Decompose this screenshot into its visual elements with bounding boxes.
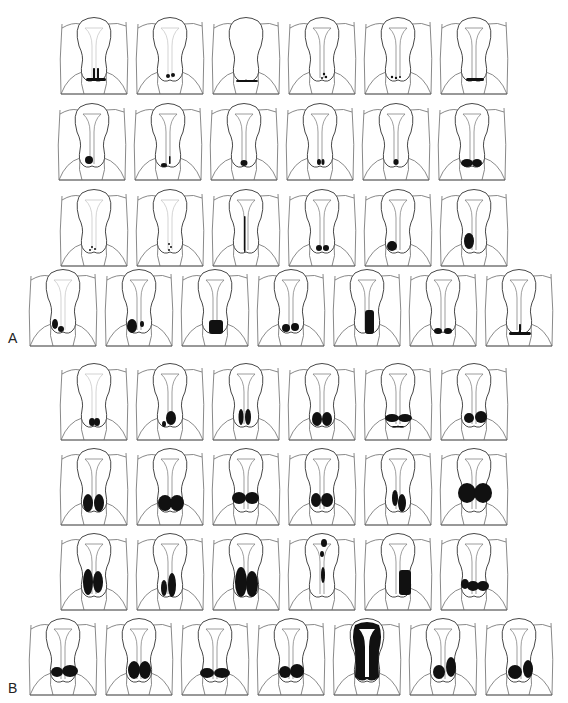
lesion-mark [244, 216, 246, 252]
schematic-b-r4-c1 [27, 615, 99, 697]
schematic-b-r2-c5 [362, 445, 434, 527]
lesion-mark [93, 571, 103, 593]
schematic-b-r4-c2 [103, 615, 175, 697]
lesion-mark [279, 666, 291, 678]
schematic-a-r2-c2 [132, 100, 204, 182]
lesion-mark [245, 492, 259, 504]
lesion-mark [209, 320, 223, 334]
lesion-mark [140, 321, 144, 327]
lesion-mark [200, 668, 214, 678]
lesion-mark [282, 324, 290, 332]
lesion-mark [394, 159, 399, 165]
uterus-outline [305, 190, 339, 254]
schematic-b-r1-c6 [438, 360, 510, 442]
uterus-outline [457, 18, 491, 82]
lesion-mark [158, 495, 172, 511]
lesion-mark [474, 483, 492, 503]
schematic-a-r3-c6 [438, 186, 510, 268]
panel-label-b: B [8, 680, 17, 696]
lesion-mark [398, 494, 406, 512]
schematic-b-r1-c1 [58, 360, 130, 442]
lesion-mark [323, 73, 325, 75]
schematic-a-r4-c7 [483, 266, 555, 348]
lesion-mark [236, 80, 258, 82]
schematic-a-r1-c3 [210, 14, 282, 96]
uterus-outline [455, 104, 489, 168]
lesion-mark [235, 567, 247, 597]
uterus-outline [381, 18, 415, 82]
schematic-a-r3-c1 [58, 186, 130, 268]
uterus-outline [305, 364, 339, 428]
lesion-mark [519, 324, 521, 333]
uterus-outline [457, 449, 491, 513]
uterus-outline [229, 18, 263, 82]
schematic-a-r4-c5 [331, 266, 403, 348]
lesion-mark [395, 77, 397, 79]
lesion-mark [89, 249, 91, 251]
lesion-mark [322, 159, 325, 165]
uterus-outline [381, 449, 415, 513]
schematic-b-r4-c3 [179, 615, 251, 697]
lesion-mark [321, 567, 325, 583]
schematic-a-r1-c6 [438, 14, 510, 96]
lesion-mark [168, 573, 176, 597]
schematic-b-r3-c4 [286, 530, 358, 612]
uterus-outline [426, 270, 460, 334]
lesion-mark [161, 163, 167, 167]
schematic-b-r3-c2 [134, 530, 206, 612]
schematic-b-r3-c3 [210, 530, 282, 612]
lesion-mark [385, 414, 399, 422]
lesion-mark [399, 570, 411, 595]
lesion-mark [94, 248, 96, 250]
lesion-mark [508, 665, 522, 679]
lesion-mark [433, 665, 445, 679]
lesion-mark [392, 426, 404, 428]
lesion-mark [246, 571, 258, 597]
uterus-outline [153, 190, 187, 254]
lesion-mark [83, 494, 93, 512]
uterus-outline [77, 449, 111, 513]
panel-label-a: A [8, 330, 17, 346]
lesion-mark [161, 580, 167, 596]
schematic-a-r2-c1 [56, 100, 128, 182]
uterus-outline [303, 104, 337, 168]
lesion-mark [311, 493, 321, 507]
schematic-b-r4-c7 [483, 615, 555, 697]
lesion-mark [241, 160, 248, 166]
schematic-b-r4-c5 [331, 615, 403, 697]
schematic-a-r4-c4 [255, 266, 327, 348]
schematic-b-r2-c1 [58, 445, 130, 527]
lesion-mark [245, 409, 251, 425]
schematic-a-r3-c5 [362, 186, 434, 268]
lesion-mark [464, 233, 474, 249]
lesion-mark [444, 328, 452, 334]
schematic-b-r2-c4 [286, 445, 358, 527]
lesion-mark [169, 156, 171, 164]
schematic-a-r3-c4 [286, 186, 358, 268]
uterus-outline [274, 270, 308, 334]
schematic-b-r3-c6 [438, 530, 510, 612]
schematic-b-r1-c4 [286, 360, 358, 442]
lesion-mark [162, 421, 166, 427]
uterus-outline [502, 270, 536, 334]
lesion-mark [171, 73, 175, 77]
lesion-mark [58, 326, 64, 332]
uterus-outline [151, 104, 185, 168]
schematic-a-r1-c4 [286, 14, 358, 96]
lesion-mark [477, 581, 489, 591]
lesion-mark [398, 414, 412, 422]
lesion-mark [168, 243, 170, 245]
lesion-mark [317, 159, 321, 165]
lesion-mark [392, 490, 398, 506]
schematic-b-r4-c6 [407, 615, 479, 697]
schematic-b-r2-c2 [134, 445, 206, 527]
lesion-mark [62, 665, 78, 677]
schematic-b-r2-c3 [210, 445, 282, 527]
schematic-a-r4-c2 [103, 266, 175, 348]
lesion-mark [232, 492, 246, 504]
lesion-mark [434, 328, 442, 334]
uterus-outline [457, 190, 491, 254]
lesion-mark [214, 668, 230, 678]
schematic-a-r4-c6 [407, 266, 479, 348]
lesion-mark [94, 418, 100, 426]
